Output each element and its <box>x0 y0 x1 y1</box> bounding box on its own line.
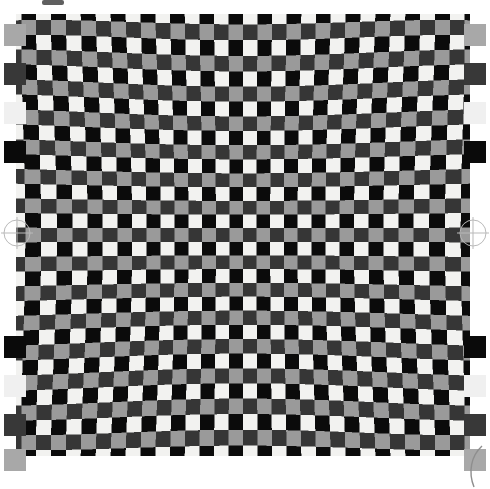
gray-patch <box>464 24 486 46</box>
gray-patch <box>464 63 486 85</box>
gray-patch <box>464 102 486 124</box>
gray-patch <box>4 449 26 471</box>
registration-mark-left <box>0 216 34 250</box>
gray-patch <box>464 375 486 397</box>
gray-patch <box>4 102 26 124</box>
corner-arc-bottom-right <box>460 444 490 489</box>
gray-patch <box>464 414 486 436</box>
gray-patch <box>4 63 26 85</box>
gray-patch <box>464 141 486 163</box>
gray-patch <box>464 336 486 358</box>
registration-mark-right <box>456 216 490 250</box>
gray-patch <box>4 336 26 358</box>
distorted-checkerboard-target <box>16 14 470 456</box>
top-edge-artifact-mark <box>42 0 64 5</box>
gray-patch <box>4 414 26 436</box>
gray-patch <box>4 141 26 163</box>
gray-patch <box>4 375 26 397</box>
gray-patch <box>4 24 26 46</box>
